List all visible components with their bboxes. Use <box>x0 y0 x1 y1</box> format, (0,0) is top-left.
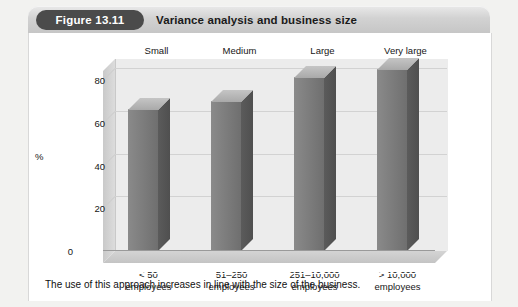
x-axis-line <box>103 250 435 251</box>
figure-number-badge: Figure 13.11 <box>36 10 144 30</box>
y-axis-zero-label: 0 <box>68 246 73 257</box>
figure-header: Figure 13.11 Variance analysis and busin… <box>28 6 490 33</box>
y-tick-60: 60 <box>79 118 105 129</box>
bar-side-face <box>407 58 419 251</box>
bar-front-face <box>128 109 158 251</box>
column-header-2: Large <box>310 45 334 56</box>
y-axis-labels: 20406080 <box>49 47 105 265</box>
x-axis-label-line: > 10,000 <box>375 269 421 281</box>
figure-title: Variance analysis and business size <box>156 10 357 30</box>
figure-caption: The use of this approach increases in li… <box>45 279 360 290</box>
bar-side-face <box>324 66 336 251</box>
column-header-3: Very large <box>384 45 427 56</box>
y-tick-20: 20 <box>79 203 105 214</box>
column-header-0: Small <box>145 45 169 56</box>
figure-number-label: Figure 13.11 <box>56 14 125 26</box>
y-axis-title: % <box>35 151 43 162</box>
bar-side-face <box>158 98 170 251</box>
column-header-1: Medium <box>223 45 257 56</box>
page-background: Figure 13.11 Variance analysis and busin… <box>0 0 518 307</box>
bar-chart: 20406080 % SmallMediumLargeVery large 0 … <box>79 47 463 265</box>
figure-panel: 20406080 % SmallMediumLargeVery large 0 … <box>28 33 492 301</box>
bar-front-face <box>377 69 407 251</box>
bar-front-face <box>211 101 241 251</box>
x-axis-label-line: employees <box>375 281 421 293</box>
chart-floor <box>103 251 447 263</box>
y-tick-40: 40 <box>79 160 105 171</box>
y-tick-80: 80 <box>79 75 105 86</box>
bar-side-face <box>241 90 253 251</box>
bar-front-face <box>294 77 324 251</box>
panel-divider <box>29 273 491 274</box>
